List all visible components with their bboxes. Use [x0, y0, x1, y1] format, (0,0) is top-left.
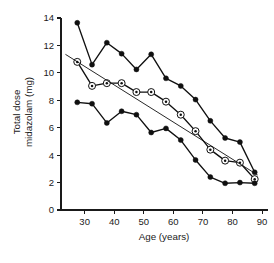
x-axis-ticks [85, 210, 262, 214]
data-point [208, 175, 213, 180]
series-path-lower-percentile [77, 102, 254, 183]
series-path-upper-percentile [77, 23, 254, 172]
data-point [104, 120, 109, 125]
x-tick-label: 40 [109, 216, 120, 227]
series-upper-percentile [75, 20, 257, 174]
y-tick-label: 8 [49, 95, 54, 106]
data-point [134, 112, 139, 117]
chart-figure: 02468101214 30405060708090 Age (years) T… [0, 0, 274, 263]
data-point [178, 138, 183, 143]
data-point [208, 118, 213, 123]
y-tick-label: 6 [49, 122, 54, 133]
data-point-dot [120, 82, 123, 85]
data-point-dot [150, 91, 153, 94]
data-point [149, 130, 154, 135]
series-lower-percentile [75, 100, 257, 186]
x-tick-label: 60 [168, 216, 179, 227]
data-point [252, 181, 257, 186]
x-tick-label: 90 [257, 216, 268, 227]
data-point [90, 101, 95, 106]
data-point [193, 97, 198, 102]
data-point [90, 62, 95, 67]
data-point [193, 157, 198, 162]
y-tick-label: 2 [49, 177, 54, 188]
y-axis-ticks [57, 18, 61, 210]
y-axis-tick-labels: 02468101214 [43, 12, 54, 215]
y-axis-title-line-1: Total dose [11, 89, 22, 134]
data-point [237, 180, 242, 185]
data-point-dot [91, 85, 94, 88]
x-axis-title: Age (years) [139, 231, 190, 242]
data-point-dot [106, 82, 109, 85]
data-point-dot [253, 178, 256, 181]
data-point [119, 51, 124, 56]
x-tick-label: 80 [227, 216, 238, 227]
data-point [223, 181, 228, 186]
y-tick-label: 0 [49, 204, 54, 215]
y-tick-label: 4 [49, 150, 54, 161]
regression-line [65, 54, 257, 175]
data-point [178, 83, 183, 88]
data-point [119, 109, 124, 114]
data-point [149, 52, 154, 57]
data-point [134, 67, 139, 72]
data-point-dot [165, 100, 168, 103]
data-point [104, 40, 109, 45]
y-axis-title-line-2: midazolam (mg) [23, 77, 34, 147]
data-point-dot [224, 159, 227, 162]
data-point [75, 20, 80, 25]
data-point-dot [180, 113, 183, 116]
x-tick-label: 30 [79, 216, 90, 227]
x-axis-tick-labels: 30405060708090 [79, 216, 267, 227]
y-tick-label: 12 [43, 40, 54, 51]
data-point-dot [194, 130, 197, 133]
data-point [237, 140, 242, 145]
x-tick-label: 70 [198, 216, 209, 227]
chart-plot-area: 02468101214 30405060708090 Age (years) T… [0, 0, 274, 263]
y-tick-label: 14 [43, 12, 54, 23]
data-point [223, 136, 228, 141]
chart-axes [61, 18, 268, 210]
data-point [163, 126, 168, 131]
data-point-dot [209, 148, 212, 151]
data-point [75, 100, 80, 105]
chart-series-group [74, 20, 258, 185]
regression-line-group [65, 54, 257, 175]
y-tick-label: 10 [43, 67, 54, 78]
x-tick-label: 50 [139, 216, 150, 227]
data-point-dot [135, 91, 138, 94]
data-point [163, 76, 168, 81]
